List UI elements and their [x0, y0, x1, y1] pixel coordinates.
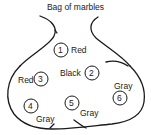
marble-6-color: Gray	[114, 82, 132, 91]
marble-4-number: 4	[28, 102, 33, 111]
marble-5-color: Gray	[80, 109, 98, 118]
bag-of-marbles-diagram: Bag of marbles 1 2 3	[0, 0, 151, 135]
marble-3-number: 3	[38, 75, 43, 84]
marble-1-number: 1	[58, 46, 63, 55]
marble-4-color: Gray	[36, 115, 54, 124]
marble-6-number: 6	[117, 94, 122, 103]
marble-2-color: Black	[60, 69, 81, 78]
marble-3-color: Red	[18, 76, 34, 85]
marble-1-color: Red	[71, 46, 87, 55]
marble-2-number: 2	[89, 69, 94, 78]
marble-5-number: 5	[69, 99, 74, 108]
